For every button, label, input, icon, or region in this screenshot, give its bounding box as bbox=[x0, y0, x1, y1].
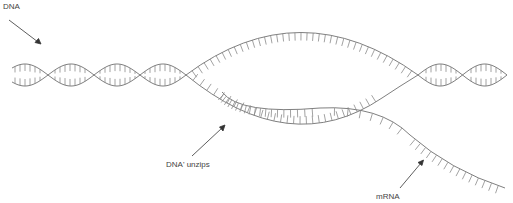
label-dna-unzips: DNA' unzips bbox=[166, 160, 210, 169]
dna-strands bbox=[12, 33, 507, 189]
label-dna: DNA bbox=[3, 2, 20, 11]
dna-arrow-icon bbox=[9, 20, 38, 42]
label-mrna: mRNA bbox=[376, 192, 400, 201]
dna-arrowhead-icon bbox=[35, 39, 41, 45]
dna-transcription-diagram bbox=[0, 0, 513, 203]
mrna-arrowhead-icon bbox=[418, 160, 424, 166]
base-pair-rungs bbox=[15, 33, 501, 194]
mrna-arrow-icon bbox=[400, 163, 421, 188]
unzips-arrow-icon bbox=[192, 128, 222, 156]
